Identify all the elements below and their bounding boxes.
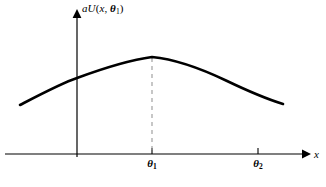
utility-curve: [20, 57, 283, 105]
y-axis-arrow-icon: [73, 9, 82, 18]
tick-label-theta1: θ1: [147, 157, 156, 171]
plot-canvas: [0, 0, 326, 187]
x-axis-label: x: [314, 148, 319, 160]
theta2-subscript: 2: [259, 162, 263, 171]
tick-label-theta2: θ2: [253, 157, 262, 171]
y-label-function: U: [88, 2, 96, 14]
figure-container: aU(x, θ1) x θ1 θ2: [0, 0, 326, 187]
y-label-close-paren: ): [120, 2, 124, 14]
y-axis-label: aU(x, θ1): [82, 2, 123, 16]
theta1-subscript: 1: [153, 162, 157, 171]
x-axis-arrow-icon: [302, 150, 311, 159]
